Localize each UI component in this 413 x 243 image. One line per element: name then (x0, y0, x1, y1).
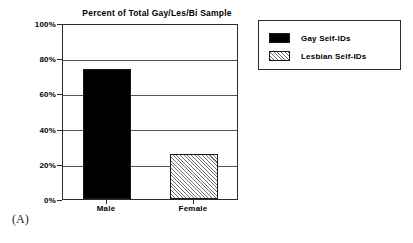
legend-swatch-solid-icon (269, 33, 290, 43)
y-axis-tick-mark-0 (57, 200, 62, 201)
bar-male-gay-self-ids (83, 69, 131, 200)
chart-title: Percent of Total Gay/Les/Bi Sample (62, 8, 252, 19)
legend-label-lesbian-self-ids: Lesbian Self-IDs (301, 52, 366, 61)
x-axis-label-male: Male (66, 204, 146, 213)
legend-entry-gay-self-ids: Gay Self-IDs (269, 32, 351, 44)
y-axis-tick-label-100: 100% (0, 20, 56, 29)
legend-entry-lesbian-self-ids: Lesbian Self-IDs (269, 50, 366, 62)
gridline-80 (63, 60, 237, 61)
panel-caption: (A) (12, 212, 29, 227)
figure-panel-a: Percent of Total Gay/Les/Bi Sample 100% … (0, 0, 413, 243)
y-axis-tick-label-40: 40% (0, 126, 56, 135)
chart-legend: Gay Self-IDs Lesbian Self-IDs (258, 20, 401, 70)
bar-female-lesbian-self-ids (170, 154, 218, 199)
y-axis-tick-label-80: 80% (0, 55, 56, 64)
y-axis-tick-label-60: 60% (0, 90, 56, 99)
y-axis-tick-label-20: 20% (0, 161, 56, 170)
x-axis-label-female: Female (153, 204, 233, 213)
y-axis-tick-label-0: 0% (0, 196, 56, 205)
legend-label-gay-self-ids: Gay Self-IDs (301, 34, 351, 43)
plot-area (62, 24, 238, 200)
legend-swatch-hatch-icon (269, 51, 290, 61)
